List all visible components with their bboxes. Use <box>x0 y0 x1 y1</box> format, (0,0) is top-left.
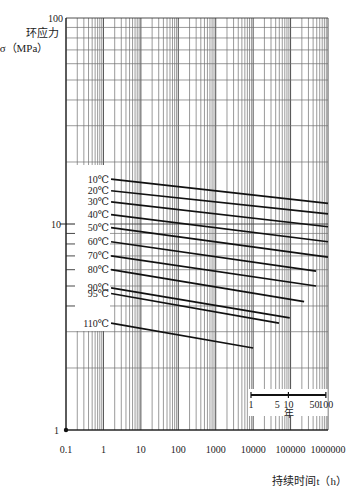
x-tick-label: 100 <box>171 444 186 455</box>
regression-line <box>111 202 328 227</box>
series-10℃: 10℃ <box>88 174 328 204</box>
y-axis-title: 环应力 <box>26 26 59 39</box>
stress-rupture-chart: 10℃20℃30℃40℃50℃60℃70℃80℃90℃95℃110℃0.1110… <box>0 0 356 486</box>
y-axis-unit: σ（MPa） <box>0 42 48 54</box>
series-label: 40℃ <box>88 209 109 220</box>
x-tick-label: 1000000 <box>311 444 346 455</box>
series-label: 110℃ <box>83 318 109 329</box>
x-axis-title: 持续时间t（h） <box>272 474 347 486</box>
x-tick-label: 10 <box>136 444 146 455</box>
y-tick-label: 10 <box>51 219 61 230</box>
series-label: 10℃ <box>88 174 109 185</box>
regression-line <box>111 228 328 258</box>
regression-line <box>111 191 328 214</box>
series-label: 20℃ <box>88 185 109 196</box>
year-tick-label: 100 <box>318 399 333 410</box>
series-60℃: 60℃ <box>88 236 316 271</box>
regression-line <box>111 179 328 203</box>
series-110℃: 110℃ <box>83 318 253 348</box>
x-tick-label: 1000 <box>206 444 226 455</box>
series-label: 95℃ <box>88 288 109 299</box>
regression-line <box>111 242 316 271</box>
x-tick-label: 10000 <box>241 444 266 455</box>
regression-line <box>111 215 328 242</box>
chart-svg: 10℃20℃30℃40℃50℃60℃70℃80℃90℃95℃110℃0.1110… <box>0 0 356 486</box>
series-label: 80℃ <box>88 264 109 275</box>
series-40℃: 40℃ <box>88 209 328 242</box>
x-tick-label: 0.1 <box>60 444 73 455</box>
series-label: 50℃ <box>88 222 109 233</box>
regression-line <box>111 256 316 286</box>
x-tick-label: 1 <box>101 444 106 455</box>
year-unit-label: 年 <box>284 407 294 419</box>
series-label: 70℃ <box>88 250 109 261</box>
year-tick-label: 1 <box>248 399 253 410</box>
y-tick-label: 100 <box>48 13 63 24</box>
regression-line <box>111 293 279 323</box>
series-90℃: 90℃ <box>88 282 290 318</box>
origin-dot <box>64 428 68 432</box>
y-tick-label: 1 <box>54 425 59 436</box>
x-tick-label: 100000 <box>276 444 306 455</box>
regression-line <box>111 288 290 318</box>
series-label: 30℃ <box>88 196 109 207</box>
year-tick-label: 5 <box>275 399 280 410</box>
series-label: 60℃ <box>88 236 109 247</box>
